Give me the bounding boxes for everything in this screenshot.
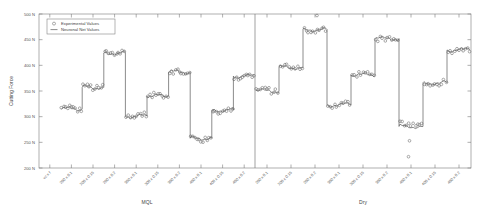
x-tick-label: 200 x 0.2 xyxy=(102,170,117,185)
group-label-dry: Dry xyxy=(359,199,367,205)
y-tick-label: 500 N xyxy=(24,12,35,17)
y-tick-label: 350 N xyxy=(24,89,35,94)
legend-label-neuronal-net: Neuronal Net Values xyxy=(61,27,99,32)
x-tick-label: 200 x 0.15 xyxy=(277,170,293,186)
x-tick-label: 400 x 0.15 xyxy=(421,170,437,186)
x-tick-label: 400 x 0.1 xyxy=(188,170,203,185)
x-axis-variable-label: vc x f xyxy=(42,170,53,181)
cutting-force-chart: 200 N250 N300 N350 N400 N450 N500 NCutti… xyxy=(0,0,482,212)
x-tick-label: 300 x 0.2 xyxy=(166,170,181,185)
x-tick-label: 400 x 0.1 xyxy=(398,170,413,185)
y-tick-label: 300 N xyxy=(24,114,35,119)
x-tick-label: 200 x 0.2 xyxy=(302,170,317,185)
group-label-mql: MQL xyxy=(142,199,153,205)
y-tick-label: 200 N xyxy=(24,166,35,171)
x-tick-label: 400 x 0.2 xyxy=(446,170,461,185)
chart-figure: 200 N250 N300 N350 N400 N450 N500 NCutti… xyxy=(0,0,482,212)
x-tick-label: 300 x 0.1 xyxy=(123,170,138,185)
x-tick-label: 300 x 0.15 xyxy=(143,170,159,186)
x-tick-label: 200 x 0.1 xyxy=(254,170,269,185)
x-tick-label: 300 x 0.1 xyxy=(326,170,341,185)
legend-label-experimental: Experimental Values xyxy=(61,21,99,26)
x-tick-label: 400 x 0.2 xyxy=(231,170,246,185)
x-tick-label: 300 x 0.15 xyxy=(349,170,365,186)
x-tick-label: 200 x 0.1 xyxy=(58,170,73,185)
x-tick-label: 200 x 0.15 xyxy=(79,170,95,186)
y-tick-label: 250 N xyxy=(24,140,35,145)
x-tick-label: 400 x 0.15 xyxy=(208,170,224,186)
x-tick-label: 300 x 0.2 xyxy=(374,170,389,185)
y-axis-title: Cutting Force xyxy=(8,76,14,106)
y-tick-label: 450 N xyxy=(24,37,35,42)
y-tick-label: 400 N xyxy=(24,63,35,68)
